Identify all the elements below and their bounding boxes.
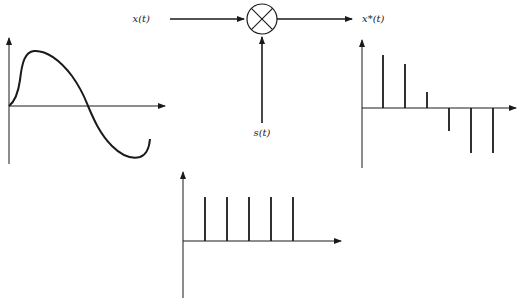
block-diagram: x(t) x*(t) s(t) [133, 4, 385, 138]
input-label: x(t) [133, 13, 151, 24]
impulse-train-plot [183, 172, 341, 298]
signal-curve [9, 51, 150, 158]
carrier-label: s(t) [254, 127, 271, 138]
sampler-diagram: x(t) x*(t) s(t) [0, 0, 520, 304]
multiplier-icon [247, 4, 277, 34]
continuous-signal-plot [9, 38, 165, 164]
output-label: x*(t) [362, 13, 385, 24]
sampled-signal-plot [362, 40, 516, 168]
